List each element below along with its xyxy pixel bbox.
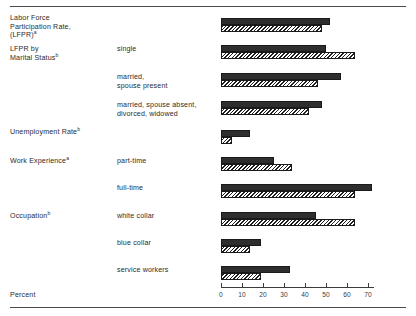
- subcategory-label-5: part-time: [117, 157, 146, 166]
- bar-hatched-5: [221, 164, 292, 171]
- bar-solid-4: [221, 130, 250, 137]
- x-tick-40: [305, 283, 306, 287]
- bar-hatched-6: [221, 191, 355, 198]
- x-tick-label-50: 50: [318, 291, 334, 298]
- bar-hatched-0: [221, 25, 322, 32]
- subcategory-label-2: married, spouse present: [117, 73, 168, 90]
- plot-area: Labor Force Participation Rate, (LFPR)aL…: [0, 0, 416, 316]
- x-tick-50: [326, 283, 327, 287]
- footnote-marker: a: [34, 29, 37, 35]
- footnote-marker: b: [77, 126, 80, 132]
- bar-solid-1: [221, 45, 326, 52]
- x-tick-0: [221, 283, 222, 287]
- bar-hatched-8: [221, 246, 250, 253]
- bar-hatched-4: [221, 137, 232, 144]
- bar-hatched-1: [221, 52, 355, 59]
- x-tick-30: [284, 283, 285, 287]
- subcategory-label-3: married, spouse absent, divorced, widowe…: [117, 101, 197, 118]
- x-tick-70: [368, 283, 369, 287]
- x-tick-label-30: 30: [276, 291, 292, 298]
- bar-hatched-7: [221, 219, 355, 226]
- subcategory-label-1: single: [117, 45, 136, 54]
- bar-solid-8: [221, 239, 261, 246]
- bar-solid-6: [221, 184, 372, 191]
- bar-solid-3: [221, 101, 322, 108]
- footnote-marker: a: [66, 155, 69, 161]
- bar-hatched-9: [221, 273, 261, 280]
- footnote-marker: b: [55, 51, 58, 57]
- x-tick-label-20: 20: [255, 291, 271, 298]
- bar-solid-2: [221, 73, 341, 80]
- subcategory-label-6: full-time: [117, 184, 143, 193]
- category-label-7: Occupationb: [10, 212, 50, 221]
- bar-solid-7: [221, 212, 316, 219]
- x-tick-label-60: 60: [339, 291, 355, 298]
- x-axis-line: [221, 287, 374, 288]
- x-tick-label-0: 0: [213, 291, 229, 298]
- x-tick-20: [263, 283, 264, 287]
- bar-hatched-3: [221, 108, 309, 115]
- bar-solid-9: [221, 266, 290, 273]
- bar-solid-5: [221, 157, 274, 164]
- x-tick-label-10: 10: [234, 291, 250, 298]
- category-label-1: LFPR by Marital Statusb: [10, 45, 58, 62]
- x-tick-label-40: 40: [297, 291, 313, 298]
- x-tick-60: [347, 283, 348, 287]
- footnote-marker: b: [47, 210, 50, 216]
- bar-hatched-2: [221, 80, 318, 87]
- subcategory-label-7: white collar: [117, 212, 154, 221]
- bar-solid-0: [221, 18, 330, 25]
- x-tick-label-70: 70: [360, 291, 376, 298]
- category-label-0: Labor Force Participation Rate, (LFPR)a: [10, 14, 71, 40]
- subcategory-label-9: service workers: [117, 266, 169, 275]
- category-label-4: Unemployment Rateb: [10, 128, 80, 137]
- category-label-5: Work Experiencea: [10, 157, 69, 166]
- x-tick-10: [242, 283, 243, 287]
- chart-figure: Labor Force Participation Rate, (LFPR)aL…: [0, 0, 416, 316]
- axis-title-percent: Percent: [10, 291, 36, 299]
- subcategory-label-8: blue collar: [117, 239, 151, 248]
